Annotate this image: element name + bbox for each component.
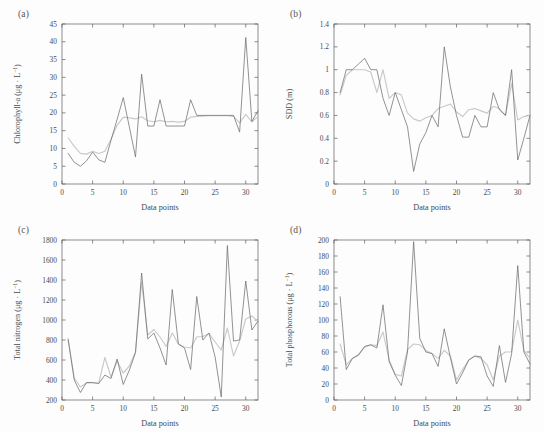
y-axis-title: Total nitrogen (μg · L−1): [12, 280, 22, 360]
y-tick-label: 35: [50, 55, 58, 64]
y-tick-label: 0: [325, 396, 329, 405]
series-line-observed: [340, 242, 530, 387]
x-tick-label: 10: [392, 188, 400, 197]
y-tick-label: 15: [50, 126, 58, 135]
y-tick-label: 180: [318, 252, 329, 261]
x-tick-label: 30: [514, 404, 522, 413]
plot-area-b: 05101520253000.20.40.60.811.21.4Data poi…: [272, 0, 544, 216]
y-tick-label: 0.8: [320, 88, 330, 97]
plot-frame: [62, 24, 258, 184]
y-tick-label: 1.2: [320, 42, 330, 51]
panel-total-phosphorous: (d) 051015202530020406080100120140160180…: [272, 216, 544, 432]
series-line-observed: [340, 47, 530, 172]
x-tick-label: 20: [453, 188, 461, 197]
y-tick-label: 1400: [42, 276, 57, 285]
figure-container: (a) 051015202530051015202530354045Data p…: [0, 0, 544, 432]
y-tick-label: 0.2: [320, 157, 330, 166]
y-tick-label: 400: [46, 376, 57, 385]
y-tick-label: 20: [322, 380, 330, 389]
plot-frame: [334, 240, 530, 400]
y-tick-label: 1200: [42, 296, 57, 305]
y-tick-label: 1000: [42, 316, 57, 325]
series-line-predicted: [68, 282, 258, 387]
y-axis-title-tail: ): [285, 273, 294, 276]
x-tick-label: 25: [211, 404, 219, 413]
y-tick-label: 1600: [42, 256, 57, 265]
x-axis-title: Data points: [141, 419, 179, 428]
y-tick-label: 80: [322, 332, 330, 341]
x-tick-label: 10: [392, 404, 400, 413]
y-tick-label: 40: [50, 37, 58, 46]
y-tick-label: 120: [318, 300, 329, 309]
x-tick-label: 30: [514, 188, 522, 197]
y-tick-label: 0: [53, 180, 57, 189]
y-tick-label: 5: [53, 162, 57, 171]
x-tick-label: 0: [332, 404, 336, 413]
panel-sdd: (b) 05101520253000.20.40.60.811.21.4Data…: [272, 0, 544, 216]
x-tick-label: 25: [483, 188, 491, 197]
plot-area-d: 051015202530020406080100120140160180200D…: [272, 216, 544, 432]
x-tick-label: 10: [120, 188, 128, 197]
y-axis-title-base: Total phosphorous (μg · L: [285, 282, 294, 368]
x-tick-label: 0: [60, 188, 64, 197]
y-axis-title-tail: ): [13, 280, 22, 283]
x-tick-label: 0: [60, 404, 64, 413]
y-tick-label: 0: [325, 180, 329, 189]
x-tick-label: 30: [242, 188, 250, 197]
panel-chlorophyll-a: (a) 051015202530051015202530354045Data p…: [0, 0, 272, 216]
x-tick-label: 5: [91, 404, 95, 413]
y-tick-label: 10: [50, 144, 58, 153]
y-tick-label: 800: [46, 336, 57, 345]
y-tick-label: 100: [318, 316, 329, 325]
x-tick-label: 20: [181, 404, 189, 413]
x-tick-label: 10: [120, 404, 128, 413]
y-tick-label: 0.4: [320, 134, 330, 143]
panel-total-nitrogen: (c) 051015202530200400600800100012001400…: [0, 216, 272, 432]
y-tick-label: 600: [46, 356, 57, 365]
series-line-observed: [68, 246, 258, 398]
y-tick-label: 30: [50, 73, 58, 82]
x-tick-label: 5: [363, 404, 367, 413]
series-line-observed: [68, 38, 258, 167]
y-tick-label: 40: [322, 364, 330, 373]
x-tick-label: 15: [422, 188, 430, 197]
x-tick-label: 0: [332, 188, 336, 197]
y-tick-label: 25: [50, 91, 58, 100]
y-tick-label: 1800: [42, 236, 57, 245]
series-line-predicted: [68, 114, 258, 154]
y-tick-label: 45: [50, 20, 58, 29]
y-tick-label: 60: [322, 348, 330, 357]
x-tick-label: 15: [422, 404, 430, 413]
plot-area-c: 0510152025302004006008001000120014001600…: [0, 216, 272, 432]
y-tick-label: 200: [46, 396, 57, 405]
y-axis-title: SDD (m): [285, 89, 294, 120]
x-tick-label: 20: [453, 404, 461, 413]
series-line-predicted: [340, 70, 530, 121]
x-axis-title: Data points: [413, 419, 451, 428]
y-axis-title-base: Chlorophyll-a (μg · L: [13, 73, 22, 144]
series-line-predicted: [340, 320, 530, 380]
x-tick-label: 30: [242, 404, 250, 413]
x-tick-label: 5: [91, 188, 95, 197]
y-tick-label: 0.6: [320, 111, 330, 120]
x-tick-label: 15: [150, 404, 158, 413]
y-tick-label: 1.4: [320, 20, 330, 29]
x-axis-title: Data points: [141, 203, 179, 212]
y-axis-title: Chlorophyll-a (μg · L−1): [12, 64, 22, 144]
plot-frame: [334, 24, 530, 184]
y-axis-title: Total phosphorous (μg · L−1): [284, 273, 294, 368]
y-tick-label: 160: [318, 268, 329, 277]
y-tick-label: 20: [50, 108, 58, 117]
x-axis-title: Data points: [413, 203, 451, 212]
y-axis-title-tail: ): [13, 64, 22, 67]
x-tick-label: 5: [363, 188, 367, 197]
plot-area-a: 051015202530051015202530354045Data point…: [0, 0, 272, 216]
y-tick-label: 140: [318, 284, 329, 293]
y-axis-title-base: Total nitrogen (μg · L: [13, 289, 22, 360]
y-tick-label: 1: [325, 65, 329, 74]
y-tick-label: 200: [318, 236, 329, 245]
x-tick-label: 15: [150, 188, 158, 197]
x-tick-label: 20: [181, 188, 189, 197]
x-tick-label: 25: [483, 404, 491, 413]
x-tick-label: 25: [211, 188, 219, 197]
